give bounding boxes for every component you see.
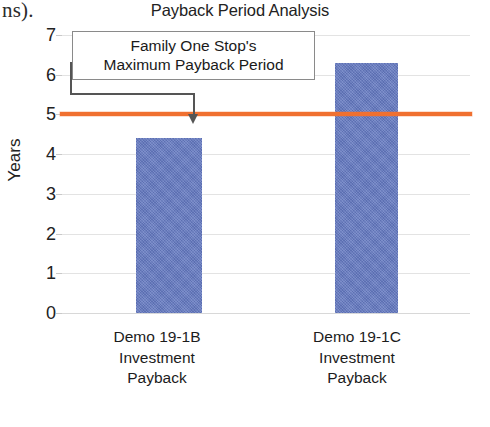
gridline-4 [62, 154, 470, 155]
tick-1 [56, 273, 62, 274]
annotation-callout: Family One Stop's Maximum Payback Period [72, 31, 315, 80]
annotation-line-2: Maximum Payback Period [79, 55, 308, 74]
x-label-line-1: Demo 19-1B [92, 327, 222, 348]
gridline-2 [62, 234, 470, 235]
maximum-payback-threshold-line [60, 112, 472, 116]
y-axis-ticks: 7 6 5 4 3 2 1 0 [26, 35, 56, 313]
bar-demo-19-1c [335, 63, 398, 313]
callout-leader-horizontal [70, 93, 195, 95]
gridline-3 [62, 194, 470, 195]
x-label-line-3: Payback [292, 368, 422, 389]
tick-3 [56, 194, 62, 195]
axis-baseline [62, 313, 470, 314]
y-tick-label-6: 6 [30, 66, 56, 84]
y-tick-label-7: 7 [30, 26, 56, 44]
bar-demo-19-1b [136, 138, 202, 313]
gridline-1 [62, 273, 470, 274]
y-tick-label-0: 0 [30, 304, 56, 322]
payback-period-chart: Payback Period Analysis Years 7 6 5 4 3 … [0, 0, 490, 427]
y-tick-label-5: 5 [30, 105, 56, 123]
y-tick-label-4: 4 [30, 145, 56, 163]
x-label-line-1: Demo 19-1C [292, 327, 422, 348]
x-label-line-2: Investment [92, 348, 222, 369]
tick-2 [56, 234, 62, 235]
callout-arrow-icon [188, 114, 198, 124]
x-label-line-3: Payback [92, 368, 222, 389]
y-axis-title: Years [5, 125, 25, 195]
tick-6 [56, 75, 62, 76]
y-tick-label-1: 1 [30, 264, 56, 282]
x-label-line-2: Investment [292, 348, 422, 369]
y-tick-label-2: 2 [30, 225, 56, 243]
tick-7 [56, 35, 62, 36]
chart-title: Payback Period Analysis [60, 1, 420, 20]
tick-4 [56, 154, 62, 155]
x-category-label-demo-19-1c: Demo 19-1C Investment Payback [292, 327, 422, 389]
annotation-line-1: Family One Stop's [79, 36, 308, 55]
tick-0 [56, 313, 62, 314]
y-tick-label-3: 3 [30, 185, 56, 203]
x-category-label-demo-19-1b: Demo 19-1B Investment Payback [92, 327, 222, 389]
